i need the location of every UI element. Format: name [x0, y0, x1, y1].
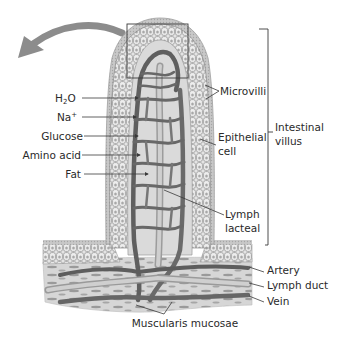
label-fat: Fat [65, 168, 81, 180]
label-epithelial-cell-line2: cell [218, 145, 236, 157]
left-labels: H2O Na+ Glucose Amino acid Fat [22, 92, 83, 180]
label-sodium: Na+ [57, 111, 77, 123]
label-vein: Vein [267, 295, 289, 307]
label-artery: Artery [267, 264, 300, 276]
label-epithelial-cell-line1: Epithelial [218, 131, 267, 143]
curved-arrow-left-icon [18, 25, 122, 58]
label-muscularis-mucosae: Muscularis mucosae [132, 317, 238, 329]
label-lymph-duct: Lymph duct [267, 279, 328, 291]
label-intestinal-villus-line2: villus [275, 135, 302, 147]
label-intestinal-villus-line1: Intestinal [275, 121, 324, 133]
intestinal-villus-diagram: H2O Na+ Glucose Amino acid Fat Microvill… [0, 0, 342, 349]
label-h2o: H2O [55, 92, 76, 106]
label-lymph-lacteal-line2: lacteal [225, 222, 260, 234]
label-amino-acid: Amino acid [22, 149, 81, 161]
label-lymph-lacteal-line1: Lymph [225, 208, 260, 220]
label-glucose: Glucose [41, 130, 83, 142]
label-microvilli: Microvilli [220, 85, 266, 97]
